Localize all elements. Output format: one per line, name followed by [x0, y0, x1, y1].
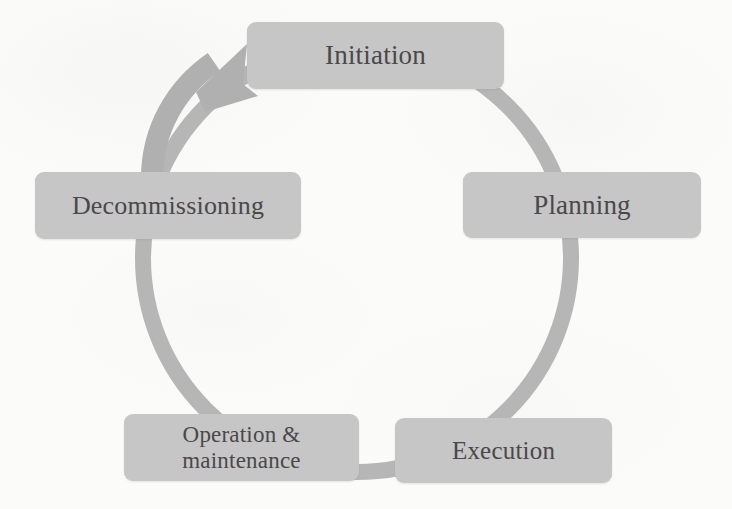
node-execution[interactable]: Execution — [395, 418, 612, 483]
node-operation-and-maintenance[interactable]: Operation & maintenance — [124, 414, 359, 481]
node-decommissioning-label: Decommissioning — [72, 191, 264, 220]
node-planning-label: Planning — [533, 190, 631, 220]
node-planning[interactable]: Planning — [463, 172, 701, 238]
node-decommissioning[interactable]: Decommissioning — [35, 172, 301, 239]
node-execution-label: Execution — [452, 437, 555, 465]
node-initiation[interactable]: Initiation — [247, 22, 504, 89]
node-operation-and-maintenance-label: Operation & maintenance — [182, 422, 300, 474]
node-initiation-label: Initiation — [325, 40, 426, 70]
diagram-canvas: Initiation Planning Execution Operation … — [0, 0, 732, 509]
